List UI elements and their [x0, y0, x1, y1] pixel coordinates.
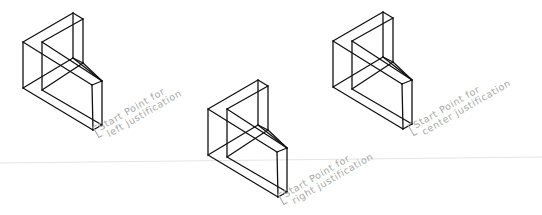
start-point-label: Start Point for right justification — [277, 142, 375, 211]
wall-edge — [333, 57, 383, 87]
justification-diagram: Start Point for left justification Start… — [0, 0, 542, 215]
wall-edge — [403, 124, 412, 129]
guide-line — [0, 157, 542, 163]
wall-edge — [402, 80, 412, 84]
wall-edge — [23, 13, 73, 42]
wall-edge — [208, 80, 258, 109]
l-wall-wireframe — [333, 12, 412, 129]
wall-edge — [277, 152, 278, 197]
l-wall-wireframe — [23, 13, 102, 130]
wall-edge — [92, 81, 102, 85]
wall-edge — [73, 13, 83, 19]
figure-right-justification: Start Point for right justification — [208, 80, 375, 211]
figure-left-justification: Start Point for left justification — [23, 13, 183, 144]
wall-edge — [42, 42, 102, 81]
wall-edge — [227, 86, 268, 109]
wall-edge — [208, 155, 278, 197]
wall-edge — [402, 84, 403, 129]
start-point-label: Start Point for left justification — [92, 79, 183, 144]
wall-edge — [268, 130, 287, 148]
wall-edge — [277, 148, 287, 152]
wall-edge — [352, 41, 412, 80]
wall-edge — [23, 88, 93, 130]
figure-center-justification: Start Point for center justification — [333, 12, 513, 142]
wall-edge — [208, 125, 258, 155]
wall-edge — [383, 12, 393, 18]
wall-edge — [23, 58, 73, 88]
wall-edge — [83, 63, 102, 81]
wall-edge — [352, 18, 393, 41]
wall-edge — [42, 19, 83, 42]
wall-edge — [92, 85, 93, 130]
wall-edge — [393, 62, 412, 80]
wall-edge — [333, 87, 403, 129]
wall-edge — [333, 12, 383, 41]
l-wall-wireframe — [208, 80, 287, 197]
start-point-label: Start Point for center justification — [407, 68, 513, 141]
wall-edge — [258, 80, 268, 86]
wall-edge — [227, 109, 287, 148]
